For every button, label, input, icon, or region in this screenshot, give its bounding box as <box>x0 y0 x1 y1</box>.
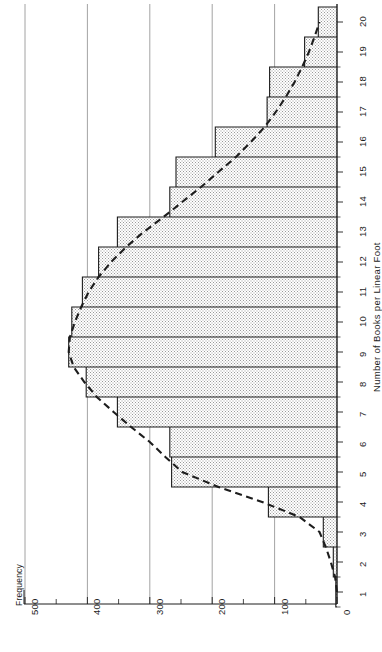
frequency-tick-label: 200 <box>216 599 227 615</box>
books-tick-label: 6 <box>357 442 368 447</box>
books-tick-label: 10 <box>357 316 368 327</box>
frequency-tick-label: 500 <box>29 599 40 615</box>
books-tick-label: 20 <box>357 16 368 27</box>
books-axis-title: Number of Books per Linear Foot <box>371 242 382 392</box>
books-tick-label: 12 <box>357 256 368 267</box>
books-tick-label: 16 <box>357 136 368 147</box>
frequency-tick-label: 300 <box>154 599 165 615</box>
frequency-tick-label: 100 <box>279 599 290 615</box>
books-tick-label: 15 <box>357 166 368 177</box>
books-tick-label: 9 <box>357 352 368 357</box>
books-tick-label: 1 <box>357 592 368 597</box>
books-tick-label: 17 <box>357 106 368 117</box>
books-tick-label: 18 <box>357 76 368 87</box>
books-tick-label: 11 <box>357 287 368 297</box>
frequency-tick-label: 400 <box>91 599 102 615</box>
books-tick-label: 3 <box>357 532 368 537</box>
histogram-bars-outline <box>69 7 337 607</box>
books-tick-label: 4 <box>357 502 368 507</box>
books-tick-label: 14 <box>357 196 368 207</box>
books-tick-label: 19 <box>357 46 368 57</box>
books-tick-label: 5 <box>357 472 368 477</box>
frequency-tick-label: 0 <box>341 610 352 615</box>
books-tick-label: 13 <box>357 226 368 237</box>
books-tick-label: 8 <box>357 382 368 387</box>
books-tick-label: 7 <box>357 412 368 417</box>
frequency-axis-title: Frequency <box>14 564 24 606</box>
books-tick-label: 2 <box>357 562 368 567</box>
